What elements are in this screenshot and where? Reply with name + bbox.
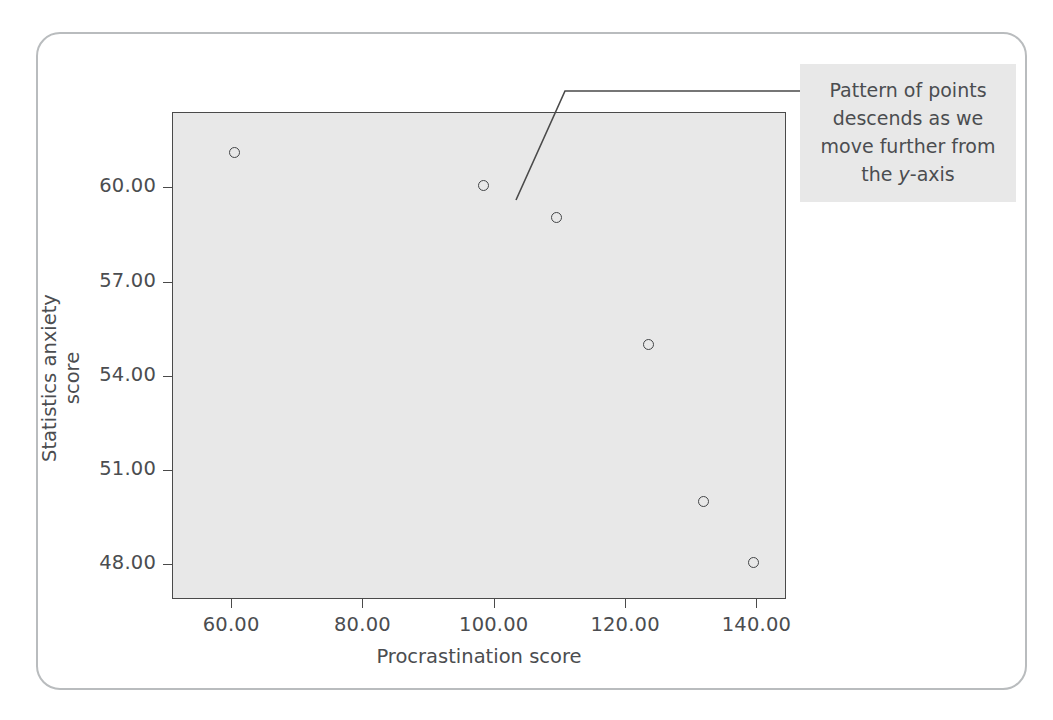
data-point xyxy=(748,557,759,568)
scatterplot-chart: 48.0051.0054.0057.0060.0060.0080.00100.0… xyxy=(0,0,1053,720)
x-axis-tick-label: 100.00 xyxy=(434,613,554,636)
x-axis-tick-label: 120.00 xyxy=(565,613,685,636)
annotation-text-part-2: -axis xyxy=(910,163,955,185)
y-axis-title: Statistics anxiety score xyxy=(38,268,84,488)
annotation-callout: Pattern of points descends as we move fu… xyxy=(800,64,1016,202)
y-axis-tick xyxy=(163,187,172,188)
data-point xyxy=(643,339,654,350)
x-axis-tick xyxy=(494,599,495,608)
x-axis-tick xyxy=(362,599,363,608)
x-axis-tick xyxy=(231,599,232,608)
y-axis-tick xyxy=(163,564,172,565)
y-axis-tick xyxy=(163,470,172,471)
y-axis-tick xyxy=(163,282,172,283)
data-point xyxy=(551,212,562,223)
y-axis-tick-label: 60.00 xyxy=(66,174,156,197)
x-axis-tick xyxy=(756,599,757,608)
y-axis-tick xyxy=(163,376,172,377)
x-axis-tick-label: 60.00 xyxy=(171,613,291,636)
x-axis-tick-label: 80.00 xyxy=(302,613,422,636)
x-axis-tick-label: 140.00 xyxy=(696,613,816,636)
x-axis-tick xyxy=(625,599,626,608)
y-axis-tick-label: 48.00 xyxy=(66,551,156,574)
annotation-text-italic: y xyxy=(899,163,910,185)
x-axis-title: Procrastination score xyxy=(172,645,786,668)
